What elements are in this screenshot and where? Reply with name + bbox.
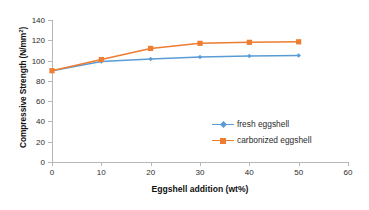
legend-item-carbonized-eggshell[interactable]: carbonized eggshell bbox=[212, 132, 362, 148]
legend-swatch-fresh-eggshell bbox=[212, 119, 234, 129]
x-tick-label: 30 bbox=[196, 168, 205, 177]
x-tick bbox=[348, 162, 349, 166]
x-tick bbox=[151, 162, 152, 166]
y-tick-label: 100 bbox=[32, 56, 45, 65]
legend-swatch-carbonized-eggshell bbox=[212, 135, 234, 145]
y-tick-label: 120 bbox=[32, 36, 45, 45]
data-point-marker bbox=[148, 57, 152, 61]
x-tick-label: 40 bbox=[245, 168, 254, 177]
y-tick-label: 140 bbox=[32, 16, 45, 25]
data-point-marker bbox=[148, 46, 153, 51]
x-tick-label: 50 bbox=[294, 168, 303, 177]
square-marker-icon bbox=[220, 138, 226, 144]
y-axis-title: Compressive Strength (N/mm2) bbox=[18, 7, 29, 167]
y-tick-label: 20 bbox=[36, 137, 45, 146]
y-axis-title-text: Compressive Strength (N/mm bbox=[18, 33, 28, 148]
x-tick bbox=[299, 162, 300, 166]
x-tick-label: 20 bbox=[146, 168, 155, 177]
data-point-marker bbox=[296, 53, 300, 57]
compressive-strength-line-chart: Compressive Strength (N/mm2) 02040608010… bbox=[0, 0, 369, 210]
y-axis-title-close: ) bbox=[18, 27, 28, 30]
x-tick-label: 0 bbox=[50, 168, 54, 177]
x-axis-title: Eggshell addition (wt%) bbox=[52, 184, 348, 194]
data-point-marker bbox=[99, 57, 104, 62]
data-point-marker bbox=[247, 40, 252, 45]
data-point-marker bbox=[247, 54, 251, 58]
diamond-marker-icon bbox=[220, 121, 227, 128]
legend-item-fresh-eggshell[interactable]: fresh eggshell bbox=[212, 116, 362, 132]
data-point-marker bbox=[296, 39, 301, 44]
data-point-marker bbox=[198, 55, 202, 59]
y-axis-title-superscript: 2 bbox=[18, 30, 24, 33]
x-tick bbox=[101, 162, 102, 166]
data-point-marker bbox=[49, 68, 54, 73]
y-tick-label: 40 bbox=[36, 117, 45, 126]
y-tick-label: 80 bbox=[36, 76, 45, 85]
y-tick-label: 60 bbox=[36, 97, 45, 106]
data-point-marker bbox=[197, 41, 202, 46]
chart-legend: fresh eggshell carbonized eggshell bbox=[212, 116, 362, 148]
y-tick-label: 0 bbox=[41, 158, 45, 167]
x-tick bbox=[249, 162, 250, 166]
legend-label-carbonized-eggshell: carbonized eggshell bbox=[237, 135, 312, 145]
x-tick bbox=[200, 162, 201, 166]
x-tick-label: 60 bbox=[344, 168, 353, 177]
x-tick bbox=[52, 162, 53, 166]
legend-label-fresh-eggshell: fresh eggshell bbox=[237, 119, 289, 129]
x-tick-label: 10 bbox=[97, 168, 106, 177]
